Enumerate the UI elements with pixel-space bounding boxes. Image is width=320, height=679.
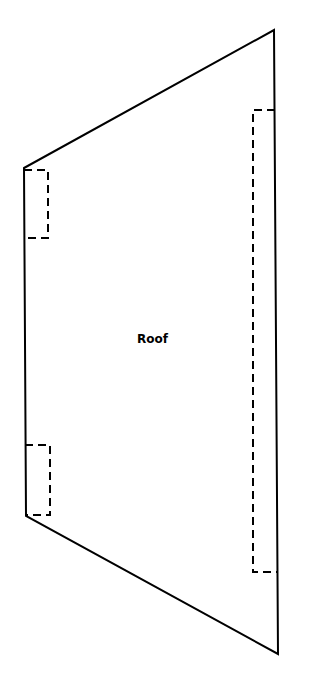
dashed-box-left-top [24,170,48,238]
dashed-box-left-bottom [25,445,50,515]
roof-label: Roof [137,332,168,346]
dashed-box-right [253,110,277,572]
